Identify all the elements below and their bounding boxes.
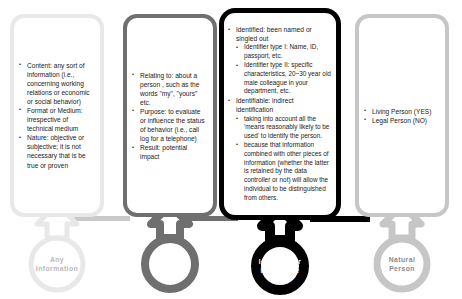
sub-list-identifiable: taking into account all the 'means reaso… — [236, 115, 332, 203]
bullet-list-relating-to: Relating to: about a person , such as th… — [131, 70, 208, 161]
column-relating-to: Relating to: about a person , such as th… — [115, 0, 225, 299]
bullet-list-identified-or-identifiable: Identified: been named or singled out Id… — [227, 25, 332, 203]
list-item-label: Identifiable: indirect identification — [236, 97, 294, 113]
list-item: Format or Medium: irrespective of techni… — [18, 106, 95, 133]
list-item: Result: potential impact — [131, 143, 208, 161]
column-identified-or-identifiable: Identified: been named or singled out Id… — [217, 0, 343, 299]
list-item: Identifiable: indirect identification ta… — [227, 96, 332, 202]
box-relating-to: Relating to: about a person , such as th… — [123, 14, 217, 217]
sub-list-item: because that information combined with o… — [236, 141, 332, 203]
sub-list-item: Identifier type II: specific characteris… — [236, 61, 332, 96]
sub-list-item: Identifier type I: Name, ID, passport, e… — [236, 44, 332, 62]
personal-data-definition-diagram: Content: any sort of information (i.e., … — [0, 0, 462, 299]
column-natural-person: Living Person (YES) Legal Person (NO) Na… — [347, 0, 457, 299]
list-item-label: Identified: been named or singled out — [236, 26, 312, 42]
list-item: Purpose: to evaluate or influence the st… — [131, 106, 208, 142]
list-item: Nature: objective or subjective; it is n… — [18, 134, 95, 170]
bullet-list-natural-person: Living Person (YES) Legal Person (NO) — [363, 106, 440, 124]
list-item: Living Person (YES) — [363, 106, 440, 115]
list-item: Relating to: about a person , such as th… — [131, 70, 208, 106]
box-any-information: Content: any sort of information (i.e., … — [10, 14, 104, 217]
bullet-list-any-information: Content: any sort of information (i.e., … — [18, 61, 95, 170]
sub-list-identified: Identifier type I: Name, ID, passport, e… — [236, 44, 332, 97]
box-natural-person: Living Person (YES) Legal Person (NO) — [355, 14, 449, 217]
list-item: Legal Person (NO) — [363, 116, 440, 125]
column-any-information: Content: any sort of information (i.e., … — [2, 0, 112, 299]
sub-list-item: taking into account all the 'means reaso… — [236, 115, 332, 141]
list-item: Identified: been named or singled out Id… — [227, 25, 332, 96]
box-identified-or-identifiable: Identified: been named or singled out Id… — [219, 8, 341, 220]
list-item: Content: any sort of information (i.e., … — [18, 61, 95, 106]
